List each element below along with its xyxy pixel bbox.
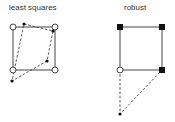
open-circle-marker-icon [52, 67, 58, 73]
filled-square-marker-icon [117, 24, 123, 30]
data-point-icon [10, 79, 13, 82]
open-circle-marker-icon [117, 67, 123, 73]
data-point-icon [22, 22, 25, 25]
filled-square-marker-icon [159, 24, 165, 30]
open-circle-marker-icon [10, 24, 16, 30]
open-circle-marker-icon [52, 24, 58, 30]
open-circle-marker-icon [10, 67, 16, 73]
data-point-icon [118, 112, 121, 115]
comparison-diagram [0, 0, 175, 122]
fitted-square [120, 27, 162, 70]
dashed-correspondence-line [12, 24, 53, 81]
filled-square-marker-icon [159, 67, 165, 73]
dashed-correspondence-line [120, 70, 162, 114]
data-point-icon [45, 59, 48, 62]
